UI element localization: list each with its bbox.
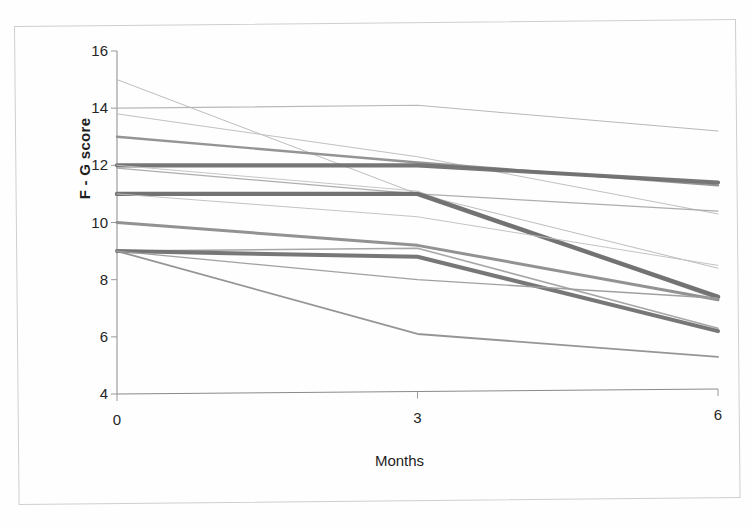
line-chart-figure: 46810121416 036 F - G score Months bbox=[0, 0, 751, 527]
y-axis-title: F - G score bbox=[76, 69, 93, 249]
x-tick-label: 6 bbox=[698, 407, 738, 422]
x-axis-title: Months bbox=[0, 452, 751, 469]
x-tick-label: 3 bbox=[398, 410, 438, 425]
x-tick-label-layer: 036 bbox=[0, 0, 751, 527]
x-tick-label: 0 bbox=[97, 412, 137, 427]
